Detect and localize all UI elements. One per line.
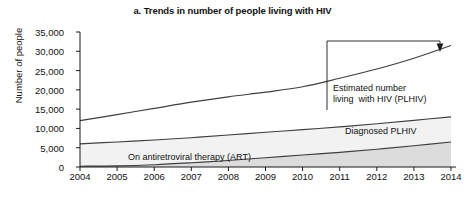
x-tick-label: 2012 [366, 171, 387, 182]
x-tick-label: 2006 [144, 171, 165, 182]
x-tick-label: 2013 [403, 171, 424, 182]
annotation-art: On antiretroviral therapy (ART) [128, 152, 251, 163]
x-tick-label: 2007 [181, 171, 202, 182]
x-tick-label: 2014 [440, 171, 461, 182]
annotation-plhiv: Estimated number living with HIV (PLHIV) [333, 83, 427, 105]
x-tick-label: 2009 [255, 171, 276, 182]
x-tick-label: 2004 [69, 171, 90, 182]
x-tick-label: 2011 [329, 171, 349, 182]
chart-figure: a. Trends in number of people living wit… [0, 0, 465, 199]
x-tick-label: 2005 [107, 171, 128, 182]
y-axis-ticks [76, 32, 80, 167]
x-tick-label: 2010 [292, 171, 313, 182]
annotation-diagnosed: Diagnosed PLHIV [345, 126, 417, 137]
x-tick-label: 2008 [218, 171, 239, 182]
